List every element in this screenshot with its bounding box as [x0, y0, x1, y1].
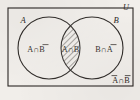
region-label-intersection: A∩B — [62, 45, 80, 54]
region-intersection-complement: B — [74, 45, 80, 54]
region-label-neither: A∩B — [112, 76, 131, 85]
region-b-only-complement: A — [107, 45, 113, 54]
svg-text:A∩B: A∩B — [27, 45, 45, 54]
venn-diagram-figure: U A B A∩B A∩B B∩A A∩B — [0, 0, 140, 100]
region-a-only-complement: B — [39, 45, 45, 54]
svg-text:B∩A: B∩A — [95, 45, 112, 54]
set-b-label: B — [113, 15, 119, 25]
region-neither-complement: B — [124, 76, 130, 85]
set-a-label: A — [19, 15, 26, 25]
svg-text:A∩B: A∩B — [112, 76, 130, 85]
svg-text:A∩B: A∩B — [62, 45, 80, 54]
venn-diagram-canvas: U A B A∩B A∩B B∩A A∩B — [0, 0, 140, 100]
